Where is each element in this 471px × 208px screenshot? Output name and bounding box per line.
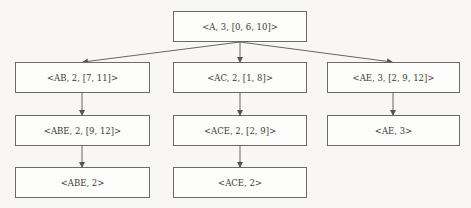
node-ac: <AC, 2, [1, 8]> (173, 62, 307, 93)
node-ae: <AE, 3, [2, 9, 12]> (327, 62, 460, 93)
node-abe-list: <ABE, 2, [9, 12]> (15, 115, 150, 146)
node-ace-list: <ACE, 2, [2, 9]> (173, 115, 307, 146)
node-abe-final: <ABE, 2> (15, 167, 150, 198)
node-root: <A, 3, [0, 6, 10]> (173, 11, 307, 42)
node-ab: <AB, 2, [7, 11]> (15, 62, 150, 93)
edge-root-ab (83, 42, 240, 62)
node-ace-final: <ACE, 2> (173, 167, 307, 198)
node-ae-final: <AE, 3> (327, 115, 460, 146)
edge-root-ae (240, 42, 392, 62)
